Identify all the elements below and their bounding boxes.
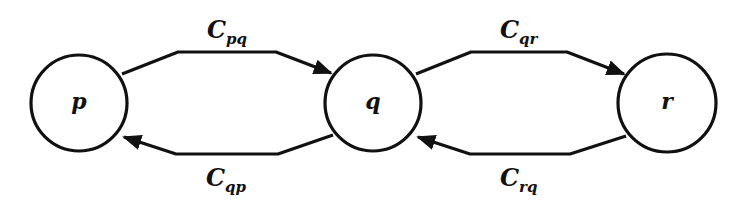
node-p: p (31, 55, 127, 151)
node-r: r (618, 54, 716, 152)
node-r-label: r (661, 88, 674, 114)
edge-qr-label: Cqr (500, 15, 539, 48)
edge-p-to-q: Cpq (122, 15, 331, 74)
node-q-label: q (365, 88, 380, 114)
edge-qp-line (124, 135, 333, 154)
edge-pq-label: Cpq (207, 15, 247, 48)
edge-q-to-p: Cqp (124, 135, 333, 196)
edge-qr-line (416, 52, 624, 74)
edge-rq-line (418, 136, 626, 154)
node-q: q (325, 55, 421, 151)
edge-q-to-r: Cqr (416, 15, 624, 74)
edge-qp-label: Cqp (206, 163, 247, 196)
edge-rq-label: Crq (500, 163, 538, 196)
edge-r-to-q: Crq (418, 136, 626, 196)
state-diagram: Cpq Cqp Cqr Crq p q r (0, 0, 740, 202)
edge-pq-line (122, 52, 331, 74)
node-p-label: p (71, 88, 87, 114)
